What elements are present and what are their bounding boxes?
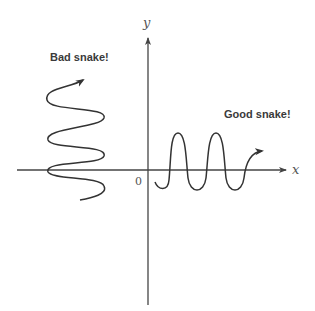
bad-snake-curve [47, 80, 105, 200]
y-axis-label: y [142, 15, 151, 30]
x-axis-label: x [292, 162, 300, 177]
coordinate-diagram: x y 0 Bad snake! Good snake! [0, 0, 315, 311]
good-snake-label: Good snake! [224, 108, 291, 120]
origin-label: 0 [135, 175, 142, 188]
bad-snake-label: Bad snake! [50, 51, 109, 63]
good-snake-curve [155, 133, 262, 190]
